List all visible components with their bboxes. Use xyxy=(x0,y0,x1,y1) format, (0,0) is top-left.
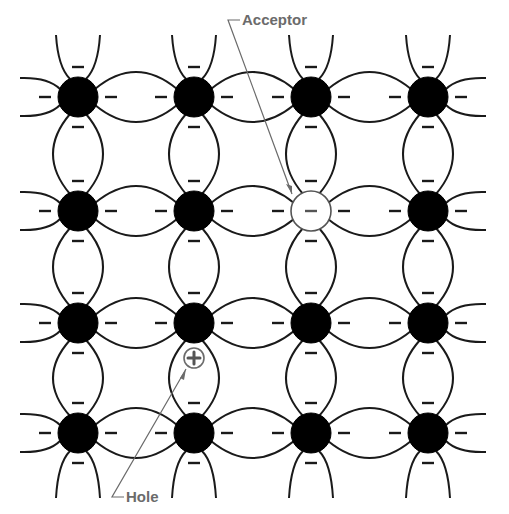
bond-stub xyxy=(56,35,70,79)
covalent-bond xyxy=(202,114,219,194)
bond-stub xyxy=(20,78,60,89)
bond-stub xyxy=(436,35,450,79)
covalent-bond xyxy=(86,340,103,416)
bond-stub xyxy=(446,105,486,116)
bond-stub xyxy=(319,35,333,79)
covalent-bond xyxy=(436,228,453,306)
semiconductor-atom xyxy=(174,303,214,343)
bond-stub xyxy=(446,219,486,230)
covalent-bond xyxy=(328,441,411,458)
bond-stub xyxy=(20,192,60,203)
bond-stub xyxy=(20,105,60,116)
bond-stub xyxy=(319,451,333,498)
semiconductor-atom xyxy=(291,413,331,453)
bond-stub xyxy=(202,35,216,79)
covalent-bond xyxy=(319,228,336,306)
acceptor-arrowhead-icon xyxy=(286,184,292,194)
covalent-bond xyxy=(95,408,177,425)
covalent-bond xyxy=(319,340,336,416)
bond-stub xyxy=(446,78,486,89)
covalent-bond xyxy=(211,219,294,236)
covalent-bond xyxy=(211,408,294,425)
bond-stub xyxy=(56,451,70,498)
covalent-bond xyxy=(403,228,420,306)
covalent-bond xyxy=(95,105,177,122)
bond-stub xyxy=(172,35,186,79)
bond-stub xyxy=(436,451,450,498)
semiconductor-atom xyxy=(174,413,214,453)
covalent-bond xyxy=(436,114,453,194)
bond-stub xyxy=(20,304,60,315)
bond-stub xyxy=(202,451,216,498)
hole-label: Hole xyxy=(126,488,159,505)
covalent-bond xyxy=(95,331,177,348)
bond-stub xyxy=(289,35,303,79)
bond-stub xyxy=(446,414,486,425)
bond-stub xyxy=(406,35,420,79)
covalent-bond xyxy=(328,105,411,122)
covalent-bond xyxy=(328,186,411,203)
covalent-bond xyxy=(169,114,186,194)
bond-stub xyxy=(446,441,486,452)
bond-stub xyxy=(446,192,486,203)
covalent-bond xyxy=(328,219,411,236)
acceptor-label: Acceptor xyxy=(242,11,307,28)
covalent-bond xyxy=(211,186,294,203)
semiconductor-atom xyxy=(408,191,448,231)
covalent-bond xyxy=(95,186,177,203)
covalent-bond xyxy=(169,228,186,306)
semiconductor-atom xyxy=(58,77,98,117)
covalent-bond xyxy=(86,114,103,194)
covalent-bond xyxy=(95,298,177,315)
bond-stub xyxy=(446,304,486,315)
covalent-bond xyxy=(53,114,70,194)
covalent-bond xyxy=(328,408,411,425)
covalent-bond xyxy=(95,72,177,89)
covalent-bond xyxy=(53,228,70,306)
bond-stub xyxy=(20,219,60,230)
covalent-bond xyxy=(328,72,411,89)
covalent-bond xyxy=(211,331,294,348)
bond-stub xyxy=(86,35,100,79)
semiconductor-atom xyxy=(174,77,214,117)
bond-stub xyxy=(86,451,100,498)
covalent-bond xyxy=(403,340,420,416)
bond-stub xyxy=(20,414,60,425)
atoms xyxy=(58,77,448,453)
semiconductor-atom xyxy=(291,303,331,343)
bond-stub xyxy=(446,331,486,342)
semiconductor-atom xyxy=(408,303,448,343)
semiconductor-atom xyxy=(174,191,214,231)
bond-stub xyxy=(20,331,60,342)
covalent-bond xyxy=(286,114,303,194)
semiconductor-atom xyxy=(408,77,448,117)
semiconductor-atom xyxy=(58,191,98,231)
semiconductor-lattice-diagram: Acceptor Hole xyxy=(0,0,509,514)
semiconductor-atom xyxy=(291,77,331,117)
hole-arrowhead-icon xyxy=(180,369,186,380)
covalent-bond xyxy=(53,340,70,416)
covalent-bond xyxy=(95,219,177,236)
covalent-bond xyxy=(328,298,411,315)
covalent-bond xyxy=(86,228,103,306)
hole-marker xyxy=(184,348,204,368)
covalent-bond xyxy=(436,340,453,416)
bond-stub xyxy=(172,451,186,498)
covalent-bond xyxy=(211,298,294,315)
acceptor-leader-line xyxy=(228,20,292,194)
covalent-bond xyxy=(211,441,294,458)
covalent-bond xyxy=(286,340,303,416)
covalent-bond xyxy=(328,331,411,348)
bond-stub xyxy=(289,451,303,498)
covalent-bond xyxy=(211,105,294,122)
bond-stub xyxy=(20,441,60,452)
covalent-bond xyxy=(202,228,219,306)
covalent-bond xyxy=(319,114,336,194)
covalent-bond xyxy=(286,228,303,306)
covalent-bond xyxy=(403,114,420,194)
semiconductor-atom xyxy=(58,413,98,453)
semiconductor-atom xyxy=(58,303,98,343)
covalent-bond xyxy=(202,340,219,416)
bond-stub xyxy=(406,451,420,498)
semiconductor-atom xyxy=(408,413,448,453)
